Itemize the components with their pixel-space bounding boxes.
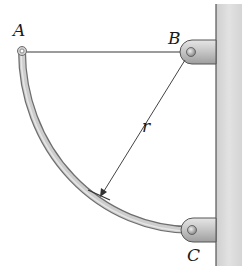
label-r: r bbox=[142, 118, 150, 135]
radius-dimension bbox=[88, 60, 185, 200]
pin-A-icon bbox=[18, 47, 27, 56]
label-C: C bbox=[187, 247, 200, 264]
label-A: A bbox=[13, 22, 25, 39]
bracket-C bbox=[181, 218, 216, 242]
label-B: B bbox=[168, 30, 181, 47]
curved-rod-AC bbox=[21, 51, 192, 231]
mechanics-diagram: A B r C bbox=[0, 0, 242, 269]
bracket-B bbox=[180, 40, 216, 64]
wall bbox=[216, 4, 242, 266]
